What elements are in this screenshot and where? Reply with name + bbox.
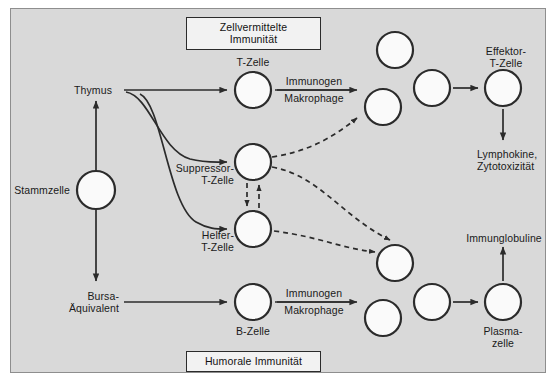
cell-b-zelle <box>235 284 271 320</box>
cell-t-clone-1 <box>377 32 413 68</box>
label-thymus: Thymus <box>74 84 112 96</box>
label-makrophage-top: Makrophage <box>284 92 343 104</box>
label-immunogen-top: Immunogen <box>286 75 342 87</box>
label-b-zelle: B-Zelle <box>236 325 270 337</box>
banner-zellvermittelte-immunitaet: Zellvermittelte Immunität <box>186 17 321 50</box>
label-makrophage-bottom: Makrophage <box>284 304 343 316</box>
label-plasmazelle-line1: Plasma- <box>483 325 522 337</box>
cell-stammzelle <box>77 171 115 209</box>
arrow-suppressor-to-t-clone <box>272 118 357 157</box>
cell-helfer <box>235 211 271 247</box>
cell-b-clone-1 <box>377 245 413 281</box>
cell-suppressor <box>235 144 271 180</box>
label-suppressor-line1: Suppressor- <box>176 162 234 174</box>
banner-humorale-immunitaet: Humorale Immunität <box>186 351 321 372</box>
label-lymphokine-line2: Zytotoxizität <box>477 160 534 172</box>
label-helfer-line2: T-Zelle <box>201 241 234 253</box>
label-immunogen-bottom: Immunogen <box>286 287 342 299</box>
label-effektor-line1: Effektor- <box>486 45 526 57</box>
immune-system-diagram: Zellvermittelte Immunität Humorale Immun… <box>0 0 558 384</box>
cell-b-clone-3 <box>414 284 450 320</box>
cell-t-clone-2 <box>365 89 401 125</box>
solid-flow-arrows <box>96 88 503 302</box>
label-suppressor-line2: T-Zelle <box>201 174 234 186</box>
label-effektor-line2: T-Zelle <box>490 57 523 69</box>
cell-plasmazelle <box>485 284 521 320</box>
label-plasmazelle-line2: zelle <box>492 337 514 349</box>
cell-b-clone-2 <box>365 300 401 336</box>
label-lymphokine-line1: Lymphokine, <box>477 148 537 160</box>
arrow-suppressor-to-b-clone <box>272 167 390 240</box>
arrow-thymus-to-suppressor <box>126 92 227 162</box>
diagram-canvas <box>0 0 558 384</box>
label-helfer-line1: Helfer- <box>202 229 234 241</box>
label-bursa-line1: Bursa- <box>87 290 119 302</box>
label-bursa-line2: Äquivalent <box>69 302 119 314</box>
label-immunglobuline: Immunglobuline <box>466 232 542 244</box>
cell-t-zelle <box>235 72 271 108</box>
arrow-helfer-to-b-clone <box>274 231 375 252</box>
label-stammzelle: Stammzelle <box>14 184 70 196</box>
cell-t-clone-3 <box>414 70 450 106</box>
cell-effektor <box>485 70 521 106</box>
label-t-zelle: T-Zelle <box>237 56 270 68</box>
